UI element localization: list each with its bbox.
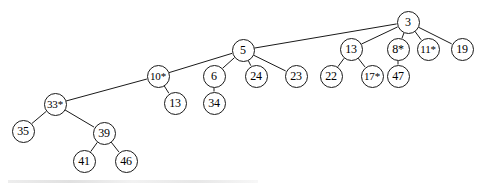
- tree-node[interactable]: 8*: [387, 38, 410, 61]
- tree-node-label: 19: [456, 43, 468, 55]
- tree-node-label: 35: [17, 125, 29, 137]
- tree-node[interactable]: 17*: [361, 65, 384, 88]
- tree-edge: [254, 24, 396, 48]
- tree-node-label: 22: [325, 70, 337, 82]
- tree-node[interactable]: 47: [387, 65, 410, 88]
- tree-node[interactable]: 6: [203, 65, 226, 88]
- tree-edge: [402, 33, 404, 38]
- tree-node-label: 34: [208, 97, 220, 109]
- tree-node-label: 47: [392, 70, 404, 82]
- tree-node-label: 33*: [47, 98, 63, 109]
- tree-node[interactable]: 24: [245, 65, 268, 88]
- tree-edge: [223, 58, 235, 69]
- tree-node-label: 8*: [392, 43, 404, 55]
- tree-node[interactable]: 34: [203, 92, 226, 115]
- tree-node-label: 13: [169, 97, 181, 109]
- tree-edge: [111, 142, 119, 152]
- tree-node-label: 39: [98, 127, 110, 139]
- tree-edge: [358, 58, 365, 67]
- tree-edge: [65, 110, 94, 127]
- tree-node-label: 3: [405, 16, 411, 28]
- tree-edge: [164, 86, 169, 94]
- tree-node-label: 5: [240, 44, 246, 56]
- tree-node-label: 11*: [420, 43, 436, 54]
- tree-node-label: 24: [250, 70, 262, 82]
- tree-edge: [248, 60, 251, 65]
- tree-edge: [338, 58, 344, 67]
- tree-diagram-canvas: 35138*11*1910*624232217*47133433*3539414…: [0, 0, 480, 186]
- tree-node-label: 41: [78, 155, 90, 167]
- tree-node-label: 13: [345, 43, 357, 55]
- tree-node[interactable]: 13: [340, 38, 363, 61]
- tree-node-label: 23: [290, 70, 302, 82]
- tree-node[interactable]: 5: [232, 39, 255, 62]
- tree-node[interactable]: 10*: [147, 65, 170, 88]
- tree-node[interactable]: 22: [320, 65, 343, 88]
- tree-node-label: 10*: [150, 70, 166, 81]
- tree-node[interactable]: 41: [73, 150, 96, 173]
- tree-node[interactable]: 11*: [417, 38, 440, 61]
- tree-edge: [91, 142, 98, 151]
- tree-node[interactable]: 23: [285, 65, 308, 88]
- tree-node[interactable]: 19: [451, 38, 474, 61]
- tree-node-label: 46: [120, 155, 132, 167]
- tree-edge: [32, 111, 46, 123]
- tree-edge: [66, 79, 147, 101]
- tree-node[interactable]: 35: [12, 120, 35, 143]
- page-artifact-smudge: [8, 180, 258, 183]
- tree-node-label: 6: [211, 70, 217, 82]
- tree-node[interactable]: 46: [115, 150, 138, 173]
- tree-node[interactable]: 33*: [44, 93, 67, 116]
- tree-edge: [415, 31, 421, 40]
- tree-node[interactable]: 39: [93, 122, 116, 145]
- tree-node-label: 17*: [364, 70, 380, 81]
- tree-node[interactable]: 3: [397, 11, 420, 34]
- tree-node[interactable]: 13: [164, 92, 187, 115]
